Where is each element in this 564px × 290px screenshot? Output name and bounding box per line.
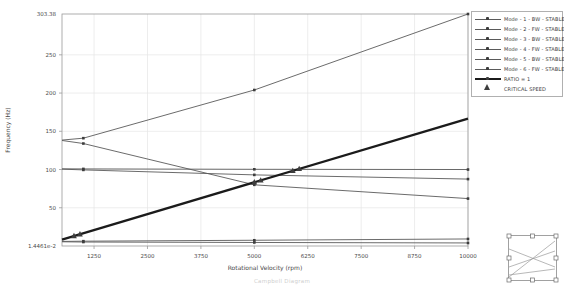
mode-line-4 [62,168,469,171]
selection-handle [507,256,511,260]
y-tick-label: 150 [46,128,57,134]
data-point-marker [82,240,85,243]
ratio-line [62,119,468,240]
legend-line-sample [475,65,501,73]
mode-line-path [62,169,468,170]
data-point-marker [253,174,256,177]
legend-item-mode-2: Mode - 2 - FW - STABLE [475,25,559,33]
chart-thumbnail-navigator[interactable] [506,233,560,284]
selection-handle [531,234,535,238]
legend-item-label: CRITICAL SPEED [504,86,546,92]
data-point-marker [253,89,256,92]
data-point-marker [253,239,256,242]
plot-frame [62,14,468,246]
x-tick-label: 7500 [354,253,368,259]
legend-item-critical: CRITICAL SPEED [475,85,559,93]
data-point-marker [82,137,85,140]
x-axis-title: Rotational Velocity (rpm) [228,264,303,272]
selection-handle [554,256,558,260]
y-axis-title: Frequency (Hz) [4,107,12,152]
x-tick-label: 5000 [247,253,261,259]
legend-item-label: Mode - 5 - BW - STABLE [504,56,564,62]
legend-line-sample [475,75,501,83]
grid-lines [62,14,468,246]
legend-line-sample [475,35,501,43]
mode-line-path [62,169,468,179]
mode-line-path [62,14,468,140]
data-point-marker [467,168,470,171]
x-tick-label: 2500 [140,253,154,259]
legend-item-label: Mode - 3 - BW - STABLE [504,36,564,42]
data-point-marker [253,168,256,171]
data-point-marker [82,142,85,145]
y-tick-label: 200 [46,90,57,96]
mode-line-6 [62,13,469,140]
selection-handle [507,234,511,238]
legend-item-mode-5: Mode - 5 - BW - STABLE [475,55,559,63]
data-point-marker [253,241,256,244]
legend-line-sample [475,45,501,53]
legend-item-ratio: RATIO = 1 [475,75,559,83]
mode-line-5 [62,140,469,199]
y-tick-label: 250 [46,52,57,58]
legend-item-label: Mode - 4 - FW - STABLE [504,46,564,52]
legend-item-label: RATIO = 1 [504,76,530,82]
y-axis-max-label: 303.38 [37,11,57,17]
legend-item-mode-6: Mode - 6 - FW - STABLE [475,65,559,73]
data-point-marker [82,168,85,171]
data-point-marker [467,13,470,16]
mode-line-path [62,242,468,243]
data-point-marker [467,197,470,200]
legend-item-mode-1: Mode - 1 - BW - STABLE [475,15,559,23]
legend-item-mode-3: Mode - 3 - BW - STABLE [475,35,559,43]
x-tick-label: 8750 [408,253,422,259]
legend-line-sample [475,25,501,33]
x-tick-label: 6250 [301,253,315,259]
data-point-marker [467,242,470,245]
figure-caption: Campbell Diagram [0,278,564,284]
x-tick-label: 3750 [194,253,208,259]
legend-item-label: Mode - 2 - FW - STABLE [504,26,564,32]
ratio-line-path [62,119,468,240]
selection-handle [554,234,558,238]
x-tick-label: 1250 [87,253,101,259]
legend-item-mode-4: Mode - 4 - FW - STABLE [475,45,559,53]
legend-item-label: Mode - 1 - BW - STABLE [504,16,564,22]
critical-speed-icon [475,85,501,93]
y-axis-min-label: 1.4461e-2 [28,243,56,249]
data-point-marker [467,238,470,241]
campbell-diagram-page: 1250250037505000625075008750100005010015… [0,0,564,290]
y-tick-label: 50 [49,205,56,211]
mode-line-path [62,239,468,241]
legend-line-sample [475,55,501,63]
legend-line-sample [475,15,501,23]
chart-legend: Mode - 1 - BW - STABLEMode - 2 - FW - ST… [471,11,563,97]
x-tick-label: 10000 [459,253,477,259]
y-tick-label: 100 [46,167,57,173]
legend-item-label: Mode - 6 - FW - STABLE [504,66,564,72]
data-point-marker [467,178,470,181]
